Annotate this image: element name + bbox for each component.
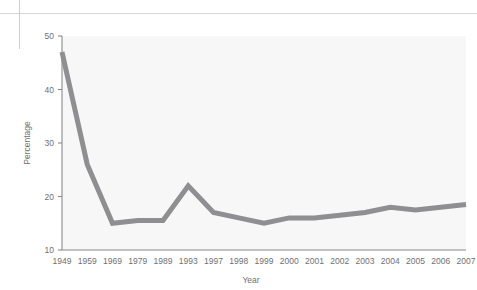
x-axis-tick-label: 1998 — [229, 256, 248, 266]
x-axis-tick-label: 2007 — [457, 256, 476, 266]
x-axis-tick-label: 1949 — [53, 256, 72, 266]
y-axis-ticks — [58, 36, 62, 250]
line-chart: 1020304050 19491959196919791989199319971… — [0, 0, 477, 290]
y-axis-tick-label: 30 — [45, 138, 55, 148]
x-axis-tick-label: 1969 — [103, 256, 122, 266]
x-axis-tick-label: 1993 — [179, 256, 198, 266]
y-axis-title: Percentage — [22, 121, 32, 165]
chart-figure: 1020304050 19491959196919791989199319971… — [0, 0, 477, 290]
y-axis-tick-label: 40 — [45, 85, 55, 95]
x-axis-tick-label: 2003 — [356, 256, 375, 266]
x-axis-tick-labels: 1949195919691979198919931997199819992000… — [53, 256, 476, 266]
y-axis-tick-label: 10 — [45, 245, 55, 255]
x-axis-tick-label: 2000 — [280, 256, 299, 266]
x-axis-tick-label: 1989 — [154, 256, 173, 266]
x-axis-title: Year — [242, 275, 259, 285]
page-rule-vertical — [19, 0, 20, 49]
x-axis-tick-label: 2006 — [431, 256, 450, 266]
y-axis-tick-labels: 1020304050 — [45, 31, 55, 255]
x-axis-tick-label: 2005 — [406, 256, 425, 266]
x-axis-tick-label: 1979 — [128, 256, 147, 266]
page-rule-horizontal — [0, 13, 477, 14]
y-axis-tick-label: 50 — [45, 31, 55, 41]
x-axis-tick-label: 1959 — [78, 256, 97, 266]
y-axis-tick-label: 20 — [45, 192, 55, 202]
x-axis-tick-label: 1997 — [204, 256, 223, 266]
x-axis-tick-label: 2001 — [305, 256, 324, 266]
x-axis-tick-label: 2004 — [381, 256, 400, 266]
plot-area-background — [62, 36, 466, 250]
x-axis-tick-label: 2002 — [330, 256, 349, 266]
x-axis-tick-label: 1999 — [255, 256, 274, 266]
